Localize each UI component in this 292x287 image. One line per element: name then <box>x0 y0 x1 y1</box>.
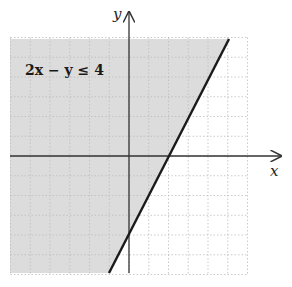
inequality-label: 2x − y ≤ 4 <box>25 62 104 78</box>
y-axis-label: y <box>112 5 122 23</box>
x-axis-label: x <box>270 162 279 180</box>
inequality-graph: x y 2x − y ≤ 4 <box>0 0 292 287</box>
